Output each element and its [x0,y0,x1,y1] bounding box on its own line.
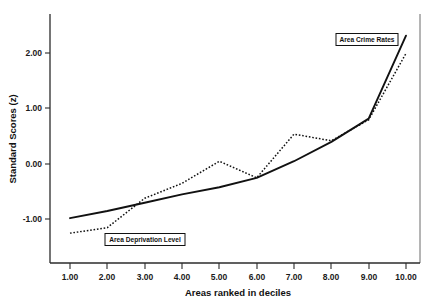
x-axis-ticks [70,263,406,269]
annotation-label-crime: Area Crime Rates [340,36,395,43]
x-tick-label-6: 6.00 [249,272,266,282]
chart-container: 2.00 1.00 0.00 -1.00 Standard Scores (z)… [0,0,442,304]
x-tick-label-10: 10.00 [395,272,417,282]
y-tick-label-1: 1.00 [25,103,42,113]
y-tick-label-neg1: -1.00 [23,214,43,224]
x-tick-label-1: 1.00 [62,272,79,282]
y-axis-ticks [45,53,50,219]
x-axis-title: Areas ranked in deciles [185,287,291,298]
line-chart: 2.00 1.00 0.00 -1.00 Standard Scores (z)… [0,0,442,304]
x-tick-label-3: 3.00 [137,272,154,282]
x-tick-label-8: 8.00 [323,272,340,282]
y-axis-title: Standard Scores (z) [7,94,18,183]
annotation-label-deprivation: Area Deprivation Level [109,236,181,244]
x-tick-label-4: 4.00 [174,272,191,282]
series-line-area-deprivation-level [70,53,406,233]
y-tick-label-0: 0.00 [25,159,42,169]
x-tick-label-2: 2.00 [99,272,116,282]
y-tick-label-2: 2.00 [25,48,42,58]
annotation-area-deprivation-level[interactable]: Area Deprivation Level [105,234,185,246]
annotation-area-crime-rates[interactable]: Area Crime Rates [336,34,398,46]
x-tick-label-9: 9.00 [361,272,378,282]
series-line-area-crime-rates [70,36,406,218]
x-tick-label-5: 5.00 [211,272,228,282]
x-tick-label-7: 7.00 [286,272,303,282]
